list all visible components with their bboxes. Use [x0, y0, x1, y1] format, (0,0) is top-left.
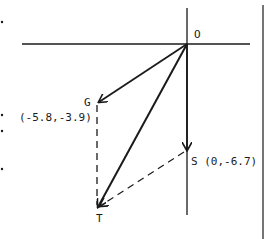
point-t-label: T — [96, 212, 103, 225]
origin-label: O — [194, 28, 201, 41]
margin-dot — [1, 21, 3, 23]
margin-dot — [1, 130, 3, 132]
point-g-label: G — [84, 96, 91, 109]
vector-o-g — [99, 44, 187, 102]
vector-o-t — [98, 44, 187, 207]
vector-diagram: O G (-5.8,-3.9) S (0,-6.7) T — [0, 0, 275, 239]
margin-dot — [1, 168, 3, 170]
point-g-coords: (-5.8,-3.9) — [19, 111, 92, 124]
margin-dot — [1, 114, 3, 116]
point-s-label: S (0,-6.7) — [191, 155, 257, 168]
